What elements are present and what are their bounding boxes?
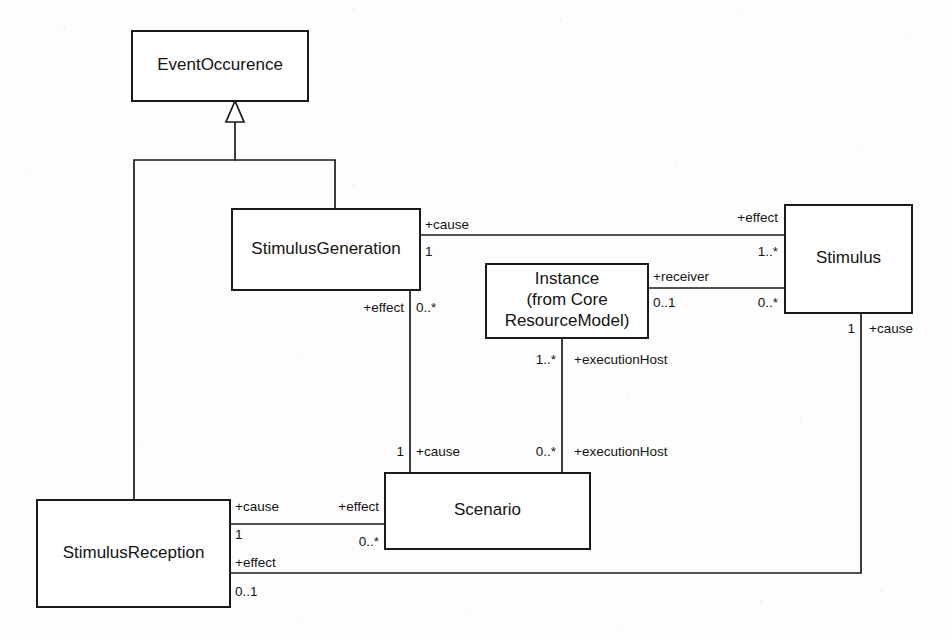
class-box-eventoccurence[interactable]: EventOccurence <box>132 31 308 101</box>
lbl-mult-1star-stimulus-left: 1..* <box>758 244 779 259</box>
lbl-mult-1-sg-right: 1 <box>425 244 433 259</box>
lbl-mult-0star-scenario-top: 0..* <box>536 444 557 459</box>
uml-class-diagram: EventOccurenceStimulusGenerationInstance… <box>0 0 952 640</box>
lbl-effect-stimulus-left: +effect <box>737 210 778 225</box>
lbl-cause-sr-right: +cause <box>235 499 279 514</box>
lbl-mult-01-sr-bottom: 0..1 <box>235 584 258 599</box>
class-box-scenario[interactable]: Scenario <box>385 473 590 549</box>
lbl-effect-scenario-left: +effect <box>338 499 379 514</box>
class-box-stimulusgeneration[interactable]: StimulusGeneration <box>232 209 420 290</box>
class-name-label: Instance <box>535 269 599 288</box>
lbl-mult-0star-scenario-left: 0..* <box>359 534 380 549</box>
lbl-mult-1-stimulus-bottom: 1 <box>847 321 855 336</box>
class-name-label: EventOccurence <box>157 55 283 74</box>
class-box-stimulus[interactable]: Stimulus <box>785 205 912 313</box>
lbl-mult-1star-instance-bottom: 1..* <box>536 352 557 367</box>
class-name-label: StimulusReception <box>63 543 205 562</box>
lbl-executionhost-instance-bottom: +executionHost <box>574 352 668 367</box>
lbl-cause-scenario-top-left: +cause <box>416 444 460 459</box>
lbl-mult-01-instance-right: 0..1 <box>653 295 676 310</box>
lbl-mult-1-scenario-top-left: 1 <box>396 444 404 459</box>
lbl-executionhost-scenario-top: +executionHost <box>574 444 668 459</box>
class-name-label: (from Core <box>526 290 607 309</box>
lbl-cause-sg-right: +cause <box>425 217 469 232</box>
lbl-receiver-instance-right: +receiver <box>653 269 709 284</box>
class-name-label: StimulusGeneration <box>251 239 400 258</box>
class-box-stimulusreception[interactable]: StimulusReception <box>37 500 230 607</box>
lbl-mult-0star-stimulus-left2: 0..* <box>758 295 779 310</box>
class-name-label: ResourceModel) <box>505 311 630 330</box>
class-name-label: Scenario <box>454 500 521 519</box>
class-box-instance[interactable]: Instance(from CoreResourceModel) <box>486 264 648 338</box>
lbl-effect-sr-bottom: +effect <box>235 555 276 570</box>
class-name-label: Stimulus <box>816 248 881 267</box>
lbl-mult-1-sr-right: 1 <box>235 527 243 542</box>
lbl-mult-0star-sg-bottom: 0..* <box>416 300 437 315</box>
lbl-cause-stimulus-bottom: +cause <box>869 321 913 336</box>
uml-diagram-canvas: EventOccurenceStimulusGenerationInstance… <box>0 0 952 640</box>
lbl-effect-sg-bottom: +effect <box>363 300 404 315</box>
